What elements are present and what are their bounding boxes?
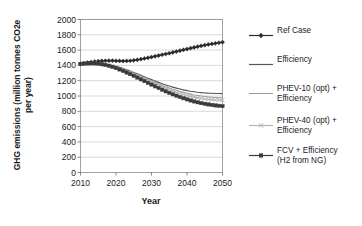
legend-marker-icon	[248, 85, 274, 96]
legend-label: Ref Case	[277, 26, 311, 36]
legend-label: FCV + Efficiency (H2 from NG)	[277, 146, 338, 165]
legend-item[interactable]: PHEV-10 (opt) + Efficiency	[248, 84, 360, 103]
legend-marker-icon	[248, 147, 274, 158]
legend-label: PHEV-10 (opt) + Efficiency	[277, 84, 337, 103]
legend-item[interactable]: PHEV-40 (opt) + Efficiency	[248, 116, 360, 135]
legend-marker-icon	[248, 27, 274, 38]
legend-item[interactable]: Efficiency	[248, 55, 360, 67]
gridlines	[81, 20, 223, 158]
chart-figure: GHG emissions (million tonnes CO2e per y…	[0, 0, 362, 226]
legend-marker-icon	[248, 117, 274, 128]
series-line	[79, 62, 224, 108]
legend-label: Efficiency	[277, 55, 312, 65]
legend-item[interactable]: Ref Case	[248, 26, 360, 38]
legend-label: PHEV-40 (opt) + Efficiency	[277, 116, 337, 135]
legend-item[interactable]: FCV + Efficiency (H2 from NG)	[248, 146, 360, 165]
chart-legend: Ref CaseEfficiencyPHEV-10 (opt) + Effici…	[248, 26, 360, 176]
legend-marker-icon	[248, 56, 274, 67]
series-line	[81, 63, 223, 94]
